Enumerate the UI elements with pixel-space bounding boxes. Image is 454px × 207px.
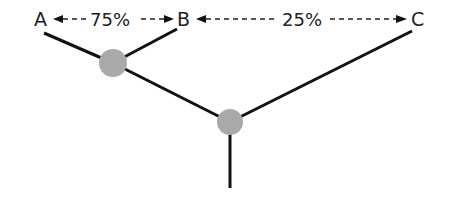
branch-c bbox=[230, 31, 412, 122]
arrowhead-left-icon bbox=[196, 15, 206, 23]
branch-ab-to-root bbox=[113, 63, 230, 122]
leaf-label-a: A bbox=[34, 8, 47, 30]
node-root bbox=[217, 109, 243, 135]
arrowhead-left-icon bbox=[53, 15, 63, 23]
arrowhead-right-icon bbox=[164, 15, 174, 23]
arrowhead-right-icon bbox=[396, 15, 407, 23]
distance-arrow-a-b: 75% bbox=[53, 9, 174, 30]
distance-arrow-b-c: 25% bbox=[196, 9, 407, 30]
leaf-label-b: B bbox=[177, 8, 190, 30]
node-ab bbox=[99, 49, 127, 77]
distance-label-a-b: 75% bbox=[90, 9, 130, 30]
leaf-label-c: C bbox=[411, 8, 424, 30]
distance-label-b-c: 25% bbox=[282, 9, 322, 30]
tree-diagram: A B C 75% 25% bbox=[0, 0, 454, 207]
